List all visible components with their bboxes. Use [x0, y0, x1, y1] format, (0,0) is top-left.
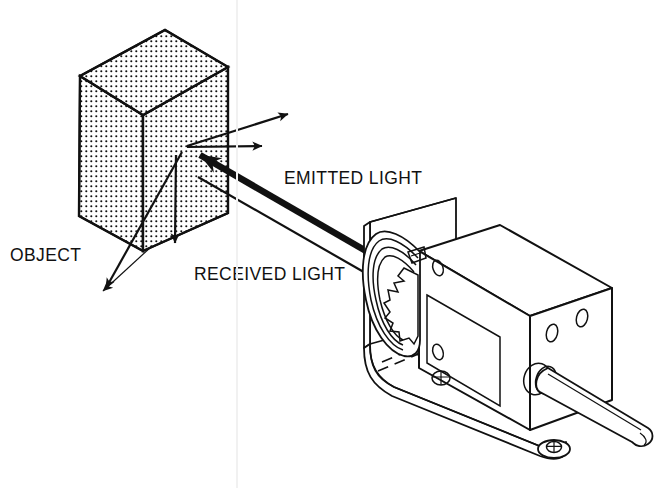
- emitted-light-label: EMITTED LIGHT: [284, 168, 422, 188]
- object-label: OBJECT: [10, 245, 81, 265]
- photoelectric-sensor: [363, 198, 653, 459]
- object-leader-arrow: [103, 246, 152, 291]
- scatter-ray-horizontal: [187, 146, 262, 147]
- scatter-ray-down-front: [175, 155, 176, 243]
- bracket-foot-screw: [547, 442, 562, 453]
- sensor-diagram-svg: OBJECT EMITTED LIGHT RECEIVED LIGHT: [0, 0, 664, 488]
- object-leader-lines: [103, 246, 152, 291]
- received-light-label: RECEIVED LIGHT: [194, 264, 345, 284]
- figure-root: OBJECT EMITTED LIGHT RECEIVED LIGHT: [0, 0, 664, 488]
